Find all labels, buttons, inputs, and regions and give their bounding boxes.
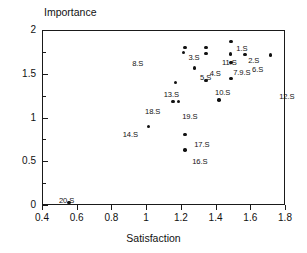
y-axis-minor-tick: [42, 183, 46, 184]
y-axis-tick: [42, 161, 48, 162]
x-axis-tick-label: 1: [131, 212, 161, 223]
data-point-label: 18.S: [145, 107, 160, 116]
data-point: [243, 53, 246, 56]
x-axis-tick: [181, 205, 182, 210]
data-point-label: 20.S: [59, 196, 74, 205]
y-axis-tick-label: 0.5: [2, 155, 36, 166]
y-axis-minor-tick: [42, 96, 46, 97]
y-axis-tick: [42, 118, 48, 119]
data-point-label: 6.S: [252, 65, 263, 74]
data-point: [229, 40, 232, 43]
data-point: [183, 148, 186, 151]
scatter-plot-figure: Importance 00.511.520.40.60.811.21.41.61…: [0, 0, 307, 253]
data-point-label: 16.S: [192, 157, 207, 166]
y-axis-tick: [42, 74, 48, 75]
y-axis-tick-label: 1: [2, 112, 36, 123]
x-axis-tick-label: 1.4: [201, 212, 231, 223]
x-axis-tick-label: 0.8: [96, 212, 126, 223]
data-point: [217, 98, 220, 101]
data-point-label: 19.S: [182, 112, 197, 121]
x-axis-tick: [216, 205, 217, 210]
y-axis-title: Importance: [44, 6, 97, 18]
y-axis-tick-label: 1.5: [2, 68, 36, 79]
x-axis-tick: [42, 205, 43, 210]
data-point-label: 10.S: [215, 88, 230, 97]
x-axis-tick: [77, 205, 78, 210]
x-axis-tick: [250, 205, 251, 210]
data-point: [204, 46, 207, 49]
x-axis-tick-label: 0.6: [62, 212, 92, 223]
data-point-label: 7.9.S: [233, 68, 250, 77]
data-point: [229, 52, 232, 55]
data-point: [229, 61, 232, 64]
y-axis-minor-tick: [42, 139, 46, 140]
data-point-label: 12.S: [279, 92, 294, 101]
data-point-label: 1.S: [236, 44, 247, 53]
data-point-label: 3.S: [188, 53, 199, 62]
data-point: [183, 46, 186, 49]
data-point-label: 17.S: [194, 140, 209, 149]
x-axis-title: Satisfaction: [0, 232, 307, 244]
x-axis-tick-label: 0.4: [27, 212, 57, 223]
data-point-label: 4.S: [210, 69, 221, 78]
x-axis-tick-label: 1.8: [270, 212, 300, 223]
data-point-label: 8.S: [132, 59, 143, 68]
data-point-label: 5.S: [200, 73, 211, 82]
data-point-label: 13.S: [164, 90, 179, 99]
data-point: [269, 53, 272, 56]
y-axis-minor-tick: [42, 52, 46, 53]
x-axis-tick-label: 1.6: [235, 212, 265, 223]
data-point: [182, 51, 185, 54]
y-axis-tick: [42, 30, 48, 31]
x-axis-tick: [146, 205, 147, 210]
x-axis-tick-label: 1.2: [166, 212, 196, 223]
x-axis-tick: [111, 205, 112, 210]
data-point: [204, 52, 207, 55]
data-point-label: 14.S: [123, 130, 138, 139]
x-axis-tick: [285, 205, 286, 210]
y-axis-tick-label: 0: [2, 199, 36, 210]
y-axis-tick-label: 2: [2, 24, 36, 35]
